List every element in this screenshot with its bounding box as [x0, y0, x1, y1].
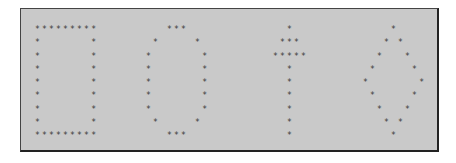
glyph-letter-o: *** * * * * * * * * * * * * * * ***: [146, 23, 209, 143]
glyph-letter-d: ********* * * * * * * * * * * * * * * **…: [35, 23, 98, 143]
glyph-diamond: * * * * * * * * * * * * * * * *: [363, 23, 426, 143]
star-pattern-panel: ********* * * * * * * * * * * * * * * **…: [20, 8, 439, 152]
glyph-arrow-up: * *** ***** * * * * * *: [273, 23, 308, 143]
glyph-letter-o-text: *** * * * * * * * * * * * * * * ***: [146, 23, 209, 143]
glyph-letter-d-text: ********* * * * * * * * * * * * * * * **…: [35, 23, 98, 143]
glyph-diamond-text: * * * * * * * * * * * * * * * *: [363, 23, 426, 143]
glyph-arrow-up-text: * *** ***** * * * * * *: [273, 23, 308, 143]
